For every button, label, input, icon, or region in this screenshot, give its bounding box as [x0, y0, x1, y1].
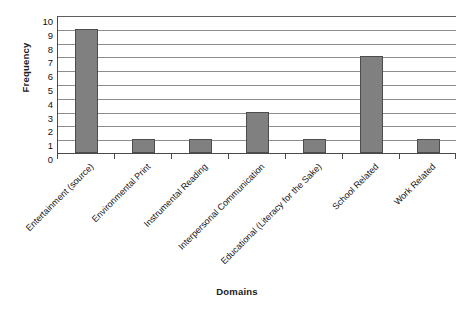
x-axis-tick-mark: [228, 154, 229, 159]
y-axis-tick-label: 3: [34, 113, 53, 124]
x-axis-tick-mark: [171, 154, 172, 159]
x-axis-tick-marks: [57, 154, 456, 160]
bar-chart-figure: Frequency 109876543210 Entertainment (so…: [0, 0, 474, 313]
bar[interactable]: [360, 56, 384, 153]
bar[interactable]: [246, 112, 270, 153]
y-axis-tick-label: 10: [34, 16, 53, 27]
bar[interactable]: [303, 139, 327, 153]
y-axis-tick-label: 6: [34, 71, 53, 82]
y-axis-tick-labels: 109876543210: [34, 10, 53, 158]
y-axis-tick-label: 0: [34, 154, 53, 165]
y-axis-tick-label: 1: [34, 140, 53, 151]
x-axis-title: Domains: [0, 286, 474, 297]
x-axis-tick-mark: [57, 154, 58, 159]
bars-group: [58, 16, 456, 153]
x-axis-tick-mark: [342, 154, 343, 159]
x-axis-tick-mark: [114, 154, 115, 159]
x-axis-tick-mark: [399, 154, 400, 159]
x-axis-tick-mark: [285, 154, 286, 159]
y-axis-tick-label: 5: [34, 85, 53, 96]
bar[interactable]: [132, 139, 156, 153]
y-axis-title: Frequency: [20, 20, 31, 116]
y-axis-tick-label: 9: [34, 30, 53, 41]
y-axis-tick-label: 7: [34, 57, 53, 68]
y-axis-tick-label: 4: [34, 99, 53, 110]
y-axis-tick-label: 2: [34, 126, 53, 137]
bar[interactable]: [189, 139, 213, 153]
y-axis-tick-label: 8: [34, 44, 53, 55]
plot-area: [57, 16, 456, 154]
x-axis-tick-mark: [455, 154, 456, 159]
bar[interactable]: [417, 139, 441, 153]
bar[interactable]: [75, 29, 99, 153]
